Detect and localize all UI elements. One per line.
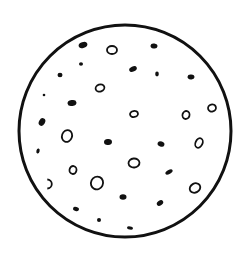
dot [79,62,83,66]
background [0,0,250,264]
dot [58,73,63,77]
dotted-circle-drawing [0,0,250,264]
dot [155,72,159,77]
dot [97,218,101,222]
dot [120,194,127,200]
dot [43,94,46,97]
